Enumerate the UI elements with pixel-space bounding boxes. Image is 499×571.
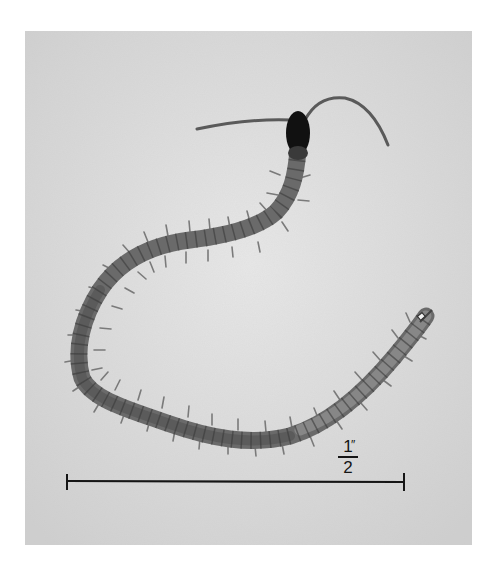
- centipede-illustration: [25, 31, 472, 545]
- scale-denominator: 2: [336, 459, 360, 476]
- scale-bar-label: 1″ 2: [336, 438, 360, 476]
- inch-mark: ″: [351, 437, 355, 454]
- specimen-photograph: [25, 31, 472, 545]
- scale-numerator: 1″: [336, 438, 360, 455]
- scale-bar-line: [67, 481, 404, 482]
